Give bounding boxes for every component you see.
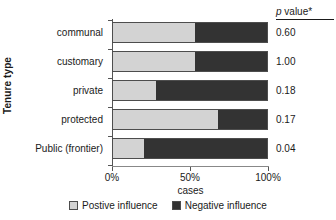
pvalue-text: 0.60 (276, 27, 295, 38)
category-label-text: communal (57, 27, 103, 38)
table-row (112, 80, 268, 101)
bar-segment-negative (144, 139, 267, 158)
bar-segment-negative (156, 81, 267, 100)
stacked-bar-public-frontier (112, 138, 268, 159)
x-axis-tick-label-0: 0% (89, 172, 135, 183)
legend-label-negative: Negative influence (185, 200, 267, 211)
stacked-bar-private (112, 80, 268, 101)
pvalue-customary: 1.00 (276, 51, 332, 72)
table-row (112, 109, 268, 130)
bar-segment-positive (113, 139, 144, 158)
chart-legend: Postive influence Negative influence (0, 200, 336, 211)
pvalue-private: 0.18 (276, 80, 332, 101)
stacked-bar-customary (112, 51, 268, 72)
table-row (112, 138, 268, 159)
bar-segment-positive (113, 81, 156, 100)
pvalue-header-text: value* (282, 6, 313, 17)
pvalue-column-header: p value* (276, 6, 334, 20)
bar-segment-positive (113, 23, 195, 42)
x-axis-tick (268, 167, 269, 171)
category-label-private: private (12, 80, 108, 101)
y-axis-tick (108, 20, 112, 21)
pvalue-text: 0.18 (276, 85, 295, 96)
category-label-text: customary (57, 56, 103, 67)
bar-segment-positive (113, 110, 218, 129)
stacked-bar-protected (112, 109, 268, 130)
y-axis-tick (108, 107, 112, 108)
bar-segment-positive (113, 52, 195, 71)
category-label-communal: communal (12, 22, 108, 43)
x-axis-tick (190, 167, 191, 171)
legend-item-positive: Postive influence (69, 200, 158, 211)
table-row (112, 51, 268, 72)
legend-swatch-negative-icon (172, 201, 181, 210)
pvalue-text: 1.00 (276, 56, 295, 67)
stacked-bar-communal (112, 22, 268, 43)
stacked-bar-chart: p value* Tenure type communal 0.60 custo… (0, 0, 336, 220)
category-label-customary: customary (12, 51, 108, 72)
bar-segment-negative (195, 23, 267, 42)
category-label-text: Public (frontier) (35, 143, 103, 154)
pvalue-text: 0.17 (276, 114, 295, 125)
x-axis-title: cases (112, 185, 269, 196)
y-axis-tick (108, 49, 112, 50)
legend-item-negative: Negative influence (172, 200, 267, 211)
bar-segment-negative (195, 52, 267, 71)
category-label-public-frontier: Public (frontier) (12, 138, 108, 159)
pvalue-text: 0.04 (276, 143, 295, 154)
y-axis-tick (108, 78, 112, 79)
table-row (112, 22, 268, 43)
bar-segment-negative (218, 110, 267, 129)
category-label-protected: protected (12, 109, 108, 130)
pvalue-protected: 0.17 (276, 109, 332, 130)
x-axis-tick-label-50: 50% (167, 172, 213, 183)
y-axis-tick (108, 136, 112, 137)
category-label-text: protected (61, 114, 103, 125)
y-axis-tick (108, 165, 112, 166)
legend-label-positive: Postive influence (82, 200, 158, 211)
x-axis-tick-label-100: 100% (245, 172, 291, 183)
pvalue-public-frontier: 0.04 (276, 138, 332, 159)
legend-swatch-positive-icon (69, 201, 78, 210)
pvalue-communal: 0.60 (276, 22, 332, 43)
category-label-text: private (73, 85, 103, 96)
x-axis-tick (112, 167, 113, 171)
